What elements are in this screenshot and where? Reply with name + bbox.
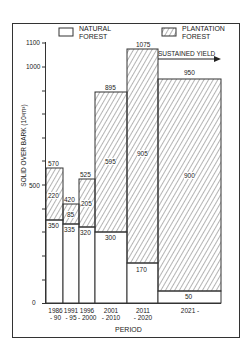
x-label-1986-line1: 1986 [47, 307, 64, 314]
total-label-2011: 1075 [136, 41, 150, 48]
plantation-label-2011: 905 [137, 150, 148, 157]
bar-1991-natural [63, 224, 79, 303]
plantation-label-2001: 595 [105, 158, 116, 165]
y-axis [42, 42, 46, 304]
legend-plantation-line1: PLANTATION [182, 25, 225, 33]
plantation-label-2021: 900 [184, 172, 195, 179]
x-label-1986-line2: - 90 [47, 314, 64, 321]
x-label-2001-line2: - 2010 [98, 314, 124, 321]
total-label-2021: 950 [184, 69, 195, 76]
x-label-2011-line2: - 2020 [130, 314, 156, 321]
natural-label-2021: 50 [185, 293, 192, 300]
x-label-2001: 2001 - 2010 [98, 307, 124, 321]
y-tick-1100: 1100 [26, 39, 40, 46]
x-label-2021-line1: 2021 - [175, 307, 205, 314]
x-label-2001-line1: 2001 [98, 307, 124, 314]
legend-natural-swatch [59, 28, 73, 36]
y-axis-label: SOLID OVER BARK (10³m³) [20, 91, 27, 201]
x-label-1991-line1: 1991 [63, 307, 79, 314]
sustained-yield-label: SUSTAINED YIELD [158, 50, 215, 57]
total-label-1986: 570 [48, 160, 59, 167]
x-label-1996-line1: 1996 [78, 307, 96, 314]
natural-label-2011: 170 [136, 266, 147, 273]
total-label-2001: 895 [105, 84, 116, 91]
legend-natural-line2: FOREST [79, 33, 111, 41]
x-label-1991-line2: - 95 [63, 314, 79, 321]
y-tick-1000: 1000 [26, 63, 40, 70]
bar-1986-natural [46, 220, 63, 303]
plantation-label-1986: 220 [48, 192, 59, 199]
y-tick-500: 500 [29, 182, 40, 189]
plantation-label-1991: 85 [67, 211, 74, 218]
legend-plantation-label: PLANTATION FOREST [182, 25, 225, 41]
bar-2001-natural [95, 232, 127, 303]
x-label-1996-line2: - 2000 [78, 314, 96, 321]
legend-plantation-line2: FOREST [182, 33, 225, 41]
x-label-1986: 1986 - 90 [47, 307, 64, 321]
x-label-2021: 2021 - [175, 307, 205, 314]
total-label-1996: 525 [80, 171, 91, 178]
legend-natural-label: NATURAL FOREST [79, 25, 111, 41]
x-axis-label: PERIOD [115, 326, 142, 333]
y-tick-0: 0 [32, 299, 36, 306]
plantation-label-1996: 205 [81, 200, 92, 207]
bar-1996-natural [79, 227, 95, 303]
legend-natural-line1: NATURAL [79, 25, 111, 33]
bar-2021-plantation [158, 79, 221, 291]
natural-label-2001: 300 [105, 234, 116, 241]
x-label-1996: 1996 - 2000 [78, 307, 96, 321]
total-label-1991: 420 [64, 196, 75, 203]
x-label-2011: 2011 - 2020 [130, 307, 156, 321]
x-label-2011-line1: 2011 [130, 307, 156, 314]
x-label-1991: 1991 - 95 [63, 307, 79, 321]
natural-label-1991: 335 [64, 226, 75, 233]
natural-label-1986: 350 [48, 222, 59, 229]
legend-plantation-swatch [162, 28, 176, 36]
natural-label-1996: 320 [80, 229, 91, 236]
